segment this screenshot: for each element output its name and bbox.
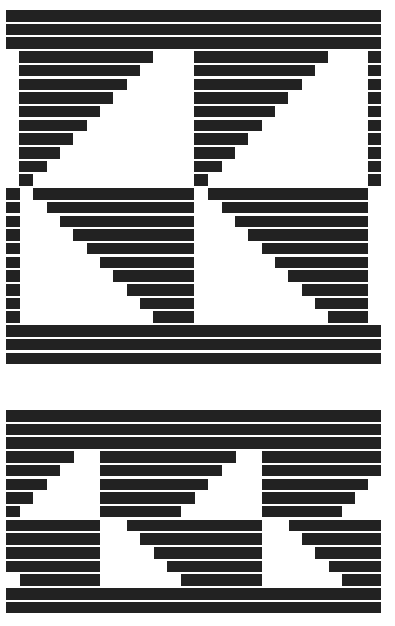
pattern-bar bbox=[235, 216, 368, 228]
pattern-bar bbox=[6, 37, 381, 49]
pattern-bar bbox=[47, 202, 194, 214]
pattern-bar bbox=[368, 120, 381, 132]
pattern-bar bbox=[368, 79, 381, 91]
pattern-bar bbox=[19, 120, 87, 132]
pattern-bar bbox=[154, 547, 262, 559]
pattern-bar bbox=[262, 243, 368, 255]
pattern-bar bbox=[127, 284, 194, 296]
pattern-bar bbox=[87, 243, 194, 255]
pattern-bar bbox=[6, 451, 74, 463]
pattern-bar bbox=[275, 257, 368, 269]
pattern-bar bbox=[100, 492, 195, 504]
pattern-bar bbox=[113, 270, 194, 282]
pattern-bar bbox=[262, 479, 368, 491]
pattern-bar bbox=[100, 465, 222, 477]
pattern-bar bbox=[262, 492, 355, 504]
pattern-bar bbox=[19, 147, 60, 159]
pattern-bar bbox=[153, 311, 194, 323]
pattern-bar bbox=[19, 65, 140, 77]
pattern-bar bbox=[194, 120, 262, 132]
pattern-bar bbox=[167, 561, 262, 573]
pattern-bar bbox=[194, 79, 302, 91]
pattern-bar bbox=[262, 451, 381, 463]
pattern-bar bbox=[6, 353, 381, 365]
pattern-bar bbox=[6, 339, 381, 351]
pattern-bar bbox=[127, 520, 262, 532]
pattern-bar bbox=[289, 520, 381, 532]
pattern-bar bbox=[6, 424, 381, 436]
pattern-bar bbox=[19, 92, 113, 104]
pattern-bar bbox=[6, 229, 20, 241]
pattern-bar bbox=[222, 202, 368, 214]
pattern-bar bbox=[368, 133, 381, 145]
pattern-bar bbox=[19, 106, 100, 118]
pattern-bar bbox=[6, 520, 100, 532]
pattern-bar bbox=[328, 311, 368, 323]
pattern-bar bbox=[6, 561, 100, 573]
pattern-bar bbox=[368, 106, 381, 118]
pattern-bar bbox=[368, 65, 381, 77]
pattern-bar bbox=[20, 574, 100, 586]
pattern-bar bbox=[315, 547, 381, 559]
pattern-bar bbox=[60, 216, 194, 228]
pattern-bar bbox=[6, 10, 381, 22]
pattern-bar bbox=[19, 174, 33, 186]
pattern-bar bbox=[194, 174, 208, 186]
pattern-bar bbox=[6, 533, 100, 545]
pattern-bar bbox=[248, 229, 368, 241]
pattern-bar bbox=[6, 24, 381, 36]
pattern-bar bbox=[194, 92, 288, 104]
pattern-bar bbox=[19, 133, 73, 145]
pattern-bar bbox=[100, 506, 181, 518]
pattern-bar bbox=[6, 588, 381, 600]
pattern-bar bbox=[6, 410, 381, 422]
pattern-bar bbox=[6, 325, 381, 337]
pattern-bar bbox=[100, 479, 208, 491]
pattern-bar bbox=[6, 284, 20, 296]
pattern-bar bbox=[100, 257, 194, 269]
pattern-bar bbox=[302, 533, 381, 545]
pattern-bar bbox=[6, 202, 20, 214]
pattern-bar bbox=[194, 133, 248, 145]
pattern-bar bbox=[19, 51, 153, 63]
pattern-bar bbox=[288, 270, 368, 282]
pattern-bar bbox=[19, 79, 127, 91]
pattern-bar bbox=[315, 298, 368, 310]
pattern-bar bbox=[302, 284, 368, 296]
pattern-bar bbox=[33, 188, 194, 200]
pattern-bar bbox=[194, 106, 275, 118]
pattern-bar bbox=[6, 298, 20, 310]
pattern-bar bbox=[208, 188, 368, 200]
pattern-bar bbox=[368, 92, 381, 104]
pattern-bar bbox=[6, 465, 60, 477]
pattern-bar bbox=[6, 602, 381, 614]
pattern-bar bbox=[368, 174, 381, 186]
pattern-bar bbox=[368, 161, 381, 173]
pattern-bar bbox=[262, 465, 381, 477]
pattern-bar bbox=[140, 298, 194, 310]
pattern-bar bbox=[6, 506, 20, 518]
pattern-bar bbox=[368, 51, 381, 63]
pattern-bar bbox=[194, 161, 222, 173]
pattern-bar bbox=[262, 506, 342, 518]
pattern-bar bbox=[6, 437, 381, 449]
pattern-bar bbox=[140, 533, 262, 545]
pattern-bar bbox=[6, 479, 47, 491]
pattern-bar bbox=[19, 161, 47, 173]
pattern-bar bbox=[6, 257, 20, 269]
pattern-bar bbox=[6, 311, 20, 323]
pattern-bar bbox=[194, 147, 235, 159]
pattern-bar bbox=[6, 243, 20, 255]
pattern-bar bbox=[6, 188, 20, 200]
pattern-bar bbox=[368, 147, 381, 159]
pattern-bar bbox=[329, 561, 381, 573]
pattern-bar bbox=[6, 270, 20, 282]
pattern-bar bbox=[342, 574, 381, 586]
pattern-bar bbox=[100, 451, 236, 463]
pattern-bar bbox=[6, 216, 20, 228]
pattern-bar bbox=[194, 51, 328, 63]
pattern-bar bbox=[181, 574, 262, 586]
pattern-bar bbox=[6, 492, 33, 504]
pattern-bar bbox=[6, 547, 100, 559]
pattern-bar bbox=[194, 65, 315, 77]
